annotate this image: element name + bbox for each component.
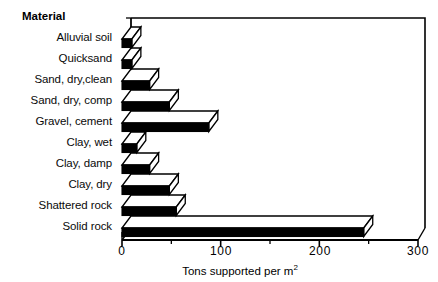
x-axis-title-superscript: 2 [293,263,297,272]
x-tick-label-1: 100 [201,245,241,257]
bar-top-face [122,216,373,228]
x-tick-label-2: 200 [300,245,340,257]
bar-front-face [122,123,209,132]
chart-container: Material Alluvial soil Quicksand Sand, d… [0,0,438,282]
bar-front-face [122,186,169,195]
bar-4 [122,111,218,132]
bar-front-face [122,60,132,69]
plot-area [0,0,438,282]
bar-front-face [122,144,137,153]
bar-front-face [122,81,150,90]
bar-front-face [122,102,169,111]
bar-front-face [122,39,132,48]
x-axis-title: Tons supported per m2 [150,261,330,278]
bar-5 [122,132,146,153]
x-axis-title-text: Tons supported per m [182,265,293,277]
bar-top-face [122,195,185,207]
bar-1 [122,48,141,69]
bar-8 [122,195,185,216]
bar-0 [122,27,141,48]
bar-front-face [122,228,364,237]
bar-front-face [122,165,150,174]
bar-9 [122,216,373,237]
x-tick-label-0: 0 [102,245,142,257]
bars-group [122,27,373,237]
bar-6 [122,153,159,174]
bar-7 [122,174,178,195]
bar-front-face [122,207,176,216]
bar-2 [122,69,159,90]
bar-3 [122,90,178,111]
x-tick-label-3: 300 [398,245,438,257]
bar-top-face [122,111,218,123]
